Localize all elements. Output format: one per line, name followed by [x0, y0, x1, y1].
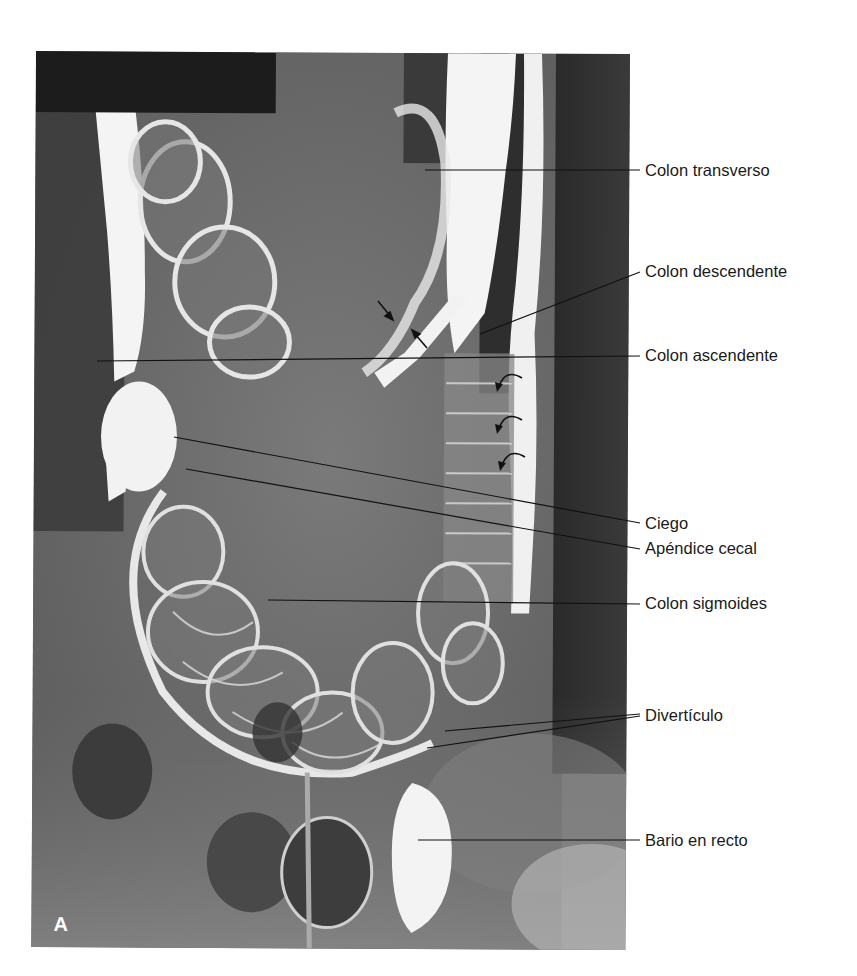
label-bario-en-recto: Bario en recto	[645, 832, 748, 849]
label-colon-transverso: Colon transverso	[645, 162, 770, 179]
redaction-bar	[36, 51, 276, 113]
barium-enema-radiograph: A	[31, 51, 630, 950]
panel-letter: A	[53, 913, 68, 936]
label-apendice-cecal: Apéndice cecal	[645, 540, 757, 557]
figure: A Colon	[0, 0, 857, 976]
label-colon-ascendente: Colon ascendente	[645, 347, 778, 364]
label-colon-descendente: Colon descendente	[645, 263, 787, 280]
radiograph-shapes	[31, 51, 630, 950]
label-colon-sigmoides: Colon sigmoides	[645, 595, 767, 612]
label-diverticulo: Divertículo	[645, 707, 723, 724]
label-ciego: Ciego	[645, 515, 688, 532]
